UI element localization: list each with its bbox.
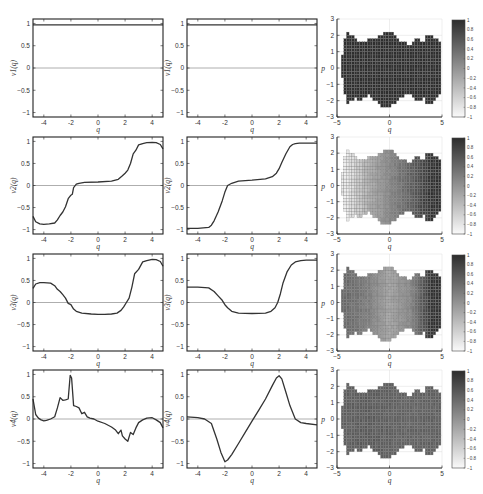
x-tick-label: 4 <box>150 119 154 126</box>
colorbar-tick-label: −0.2 <box>467 427 476 432</box>
panel-r3-c1: -4-202410.50−0.5−1qv3(q) <box>9 254 163 368</box>
colorbar-tick-label: 0 <box>467 66 470 71</box>
x-tick-label: 4 <box>304 353 308 360</box>
y-tick-label: 1 <box>330 48 334 55</box>
y-tick-label: −1 <box>327 198 335 205</box>
colorbar-tick-label: 0 <box>467 301 470 306</box>
x-tick-label: -2 <box>68 119 74 126</box>
y-tick-label: 0.5 <box>21 42 30 49</box>
panel-r2-c2: -4-202410.50−0.5−1qv2(q) <box>163 137 317 251</box>
colorbar-tick-label: 0.4 <box>467 47 474 52</box>
colorbar-tick-label: 0.2 <box>467 291 474 296</box>
figure-canvas: -4-202410.50−0.5−1qv1(q)-4-202410.50−0.5… <box>0 0 483 494</box>
x-tick-label: −5 <box>333 470 341 477</box>
colorbar-tick-label: −0.8 <box>467 105 476 110</box>
colorbar-tick-label: −0.6 <box>467 212 476 217</box>
y-axis-label: p <box>320 299 325 308</box>
y-tick-label: 1 <box>26 255 30 262</box>
x-tick-label: -4 <box>41 236 47 243</box>
x-tick-label: 2 <box>277 236 281 243</box>
y-tick-label: −0.5 <box>171 87 184 94</box>
panel-r3-c2: -4-202410.50−0.5−1qv3(q) <box>163 254 317 368</box>
x-axis-label: q <box>96 359 100 368</box>
y-axis-label: p <box>320 182 325 191</box>
colorbar-tick-label: 0.6 <box>467 272 474 277</box>
heatmap-cells <box>341 267 441 341</box>
y-tick-label: 2 <box>330 32 334 39</box>
colorbar-tick-label: −1 <box>467 466 473 471</box>
x-tick-label: 5 <box>440 236 444 243</box>
colorbar-tick-label: −0.4 <box>467 86 476 91</box>
y-tick-label: 0 <box>180 182 184 189</box>
y-tick-label: −0.5 <box>17 321 30 328</box>
panel-r4-c3: −5053210−1−2−3qp10.80.60.40.20−0.2−0.4−0… <box>320 366 476 485</box>
y-tick-label: −1 <box>177 109 185 116</box>
y-axis-label: v3(q) <box>9 294 18 310</box>
x-tick-label: -2 <box>222 353 228 360</box>
x-tick-label: 5 <box>440 353 444 360</box>
y-tick-label: −3 <box>327 230 335 237</box>
colorbar-tick-label: 0.6 <box>467 388 474 393</box>
colorbar-tick-label: 0.8 <box>467 378 474 383</box>
x-tick-label: -4 <box>41 119 47 126</box>
panel-r2-c1: -4-202410.50−0.5−1qv2(q) <box>9 137 163 251</box>
x-tick-label: 2 <box>123 236 127 243</box>
y-tick-label: 0 <box>26 299 30 306</box>
y-tick-label: −3 <box>327 464 335 471</box>
y-axis-label: v4(q) <box>9 411 18 427</box>
colorbar-tick-label: 0 <box>467 184 470 189</box>
colorbar-tick-label: 0.8 <box>467 27 474 32</box>
y-tick-label: −1 <box>23 460 31 467</box>
x-tick-label: -4 <box>195 119 201 126</box>
y-tick-label: 0 <box>180 415 184 422</box>
x-tick-label: 5 <box>440 119 444 126</box>
x-axis-label: q <box>96 476 100 485</box>
data-series-line <box>187 260 317 313</box>
colorbar-tick-label: 1 <box>467 18 470 23</box>
colorbar-tick-label: −0.4 <box>467 203 476 208</box>
y-tick-label: 3 <box>330 15 334 22</box>
y-tick-label: 3 <box>330 366 334 373</box>
x-axis-label: q <box>388 476 392 485</box>
y-tick-label: 1 <box>330 166 334 173</box>
panel-r4-c2: -4-202410.50−0.5−1qv4(q) <box>163 370 317 485</box>
heatmap-cells <box>341 383 441 458</box>
panel-r2-c3: −5053210−1−2−3qp10.80.60.40.20−0.2−0.4−0… <box>320 133 476 251</box>
y-tick-label: 3 <box>330 250 334 257</box>
colorbar: 10.80.60.40.20−0.2−0.4−0.6−0.8−1 <box>452 369 476 471</box>
colorbar-tick-label: 0.4 <box>467 164 474 169</box>
x-tick-label: 4 <box>150 470 154 477</box>
y-tick-label: −1 <box>327 315 335 322</box>
x-tick-label: -4 <box>195 470 201 477</box>
x-tick-label: 2 <box>277 470 281 477</box>
y-tick-label: 1 <box>330 399 334 406</box>
x-axis-label: q <box>250 476 254 485</box>
data-series-line <box>33 142 163 224</box>
panel-r1-c2: -4-202410.50−0.5−1qv1(q) <box>163 19 317 134</box>
y-tick-label: −1 <box>23 343 31 350</box>
colorbar-tick-label: 0 <box>467 417 470 422</box>
x-tick-label: 4 <box>304 119 308 126</box>
colorbar-tick-label: −0.2 <box>467 193 476 198</box>
y-tick-label: 2 <box>330 149 334 156</box>
y-tick-label: −2 <box>327 448 335 455</box>
x-tick-label: -4 <box>195 353 201 360</box>
y-tick-label: 1 <box>180 255 184 262</box>
y-tick-label: −0.5 <box>171 438 184 445</box>
colorbar-tick-label: 0.2 <box>467 174 474 179</box>
x-tick-label: 4 <box>304 470 308 477</box>
y-tick-label: 1 <box>330 283 334 290</box>
colorbar-tick-label: 1 <box>467 136 470 141</box>
y-tick-label: 0 <box>180 64 184 71</box>
y-tick-label: −1 <box>177 460 185 467</box>
y-tick-label: −3 <box>327 347 335 354</box>
y-tick-label: −2 <box>327 214 335 221</box>
colorbar-tick-label: 0.6 <box>467 155 474 160</box>
y-tick-label: −0.5 <box>17 204 30 211</box>
x-tick-label: -4 <box>195 236 201 243</box>
y-tick-label: 0 <box>330 415 334 422</box>
colorbar-tick-label: −0.8 <box>467 456 476 461</box>
y-axis-label: v2(q) <box>163 177 172 193</box>
colorbar-tick-label: −0.4 <box>467 320 476 325</box>
y-axis-label: p <box>320 415 325 424</box>
